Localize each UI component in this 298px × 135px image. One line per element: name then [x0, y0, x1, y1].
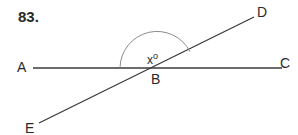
point-label-c: C — [280, 55, 290, 71]
angle-arc — [120, 31, 190, 68]
problem-number: 83. — [18, 8, 39, 25]
point-label-a: A — [17, 59, 27, 75]
geometry-diagram: 83. xo A B C D E — [0, 0, 298, 135]
point-label-e: E — [25, 120, 34, 135]
point-label-d: D — [257, 4, 267, 20]
point-label-b: B — [151, 71, 160, 87]
